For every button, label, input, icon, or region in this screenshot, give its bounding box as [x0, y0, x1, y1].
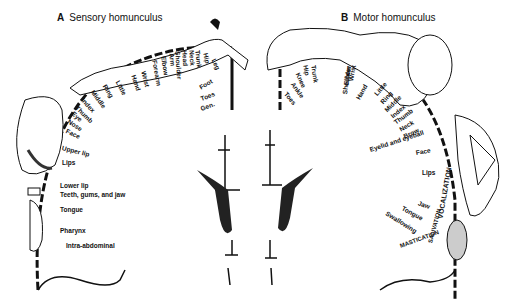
label-a-teeth: Teeth, gums, and jaw [60, 192, 125, 199]
panel-b-letter: B [341, 12, 348, 23]
label-a-trunk: Trunk [194, 50, 202, 68]
label-a-hip: Hip [202, 53, 211, 65]
label-a-lower-lip: Lower lip [60, 183, 89, 190]
panel-b-title: BMotor homunculus [341, 12, 436, 23]
label-b-lips: Lips [422, 170, 435, 177]
label-a-lips: Lips [62, 160, 75, 167]
panel-a-letter: A [57, 12, 64, 23]
label-a-intra-abdominal: Intra-abdominal [66, 243, 115, 250]
panel-a-title-text: Sensory homunculus [69, 12, 162, 23]
label-a-pharynx: Pharynx [60, 228, 86, 235]
label-b-trunk: Trunk [310, 65, 319, 83]
label-b-hip: Hip [302, 65, 310, 76]
panel-b-title-text: Motor homunculus [353, 12, 435, 23]
label-a-tongue: Tongue [60, 207, 83, 214]
panel-a-title: ASensory homunculus [57, 12, 163, 23]
